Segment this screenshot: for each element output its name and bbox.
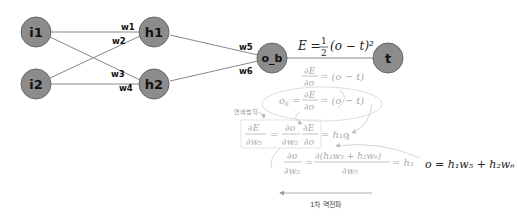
node-label: h2 <box>145 77 163 92</box>
weight-label-w3: w3 <box>111 69 125 79</box>
node-i2: i2 <box>21 69 51 99</box>
eq-part: = <box>292 95 300 106</box>
eq-part: 2 <box>321 48 327 58</box>
eq-part: ∂o <box>287 151 298 161</box>
eq-part: ∂w₅ <box>282 137 298 147</box>
weight-label-w5: w5 <box>239 42 253 52</box>
eq-part: ∂o <box>285 123 296 133</box>
weight-label-w2: w2 <box>112 36 126 46</box>
eq-part: ∂E <box>304 90 316 100</box>
backprop-label: 1차 역전파 <box>310 200 342 209</box>
node-label: t <box>385 51 391 66</box>
output-equation: o = h₁w₅ + h₂w₆ <box>425 158 515 171</box>
node-label: o_b <box>262 52 283 65</box>
weight-label-w4: w4 <box>119 83 133 93</box>
node-i1: i1 <box>21 17 51 47</box>
node-h2: h2 <box>139 69 169 99</box>
eq-part: (o − t)² <box>330 39 374 53</box>
eq-part: ∂E <box>248 123 260 133</box>
node-t: t <box>373 43 403 73</box>
error-equation: E = 1 2 (o − t)² <box>297 36 374 58</box>
do-dw5-equation: ∂o ∂w₅ = ∂(h₁w₅ + h₂w₆) ∂w₅ = h₁ <box>284 151 414 176</box>
delta-equation: o δ = ∂E ∂o = (o − t) <box>279 90 364 112</box>
chain-rule-equation: ∂E ∂w₅ = ∂o ∂w₅ ∂E ∂o = h₁o δ <box>245 123 350 147</box>
eq-part: = <box>305 157 313 168</box>
weight-label-w6: w6 <box>239 66 253 76</box>
eq-part: = h₁ <box>392 157 414 168</box>
node-ob: o_b <box>257 43 287 73</box>
edge-i2-h1 <box>50 36 140 78</box>
edge-i1-h2 <box>50 37 140 80</box>
eq-part: ∂E <box>304 66 316 76</box>
eq-part: ∂o <box>304 78 315 88</box>
eq-part: ∂o <box>304 137 315 147</box>
eq-part: E = <box>297 39 321 53</box>
node-label: i1 <box>29 25 43 40</box>
eq-part: = (o − t) <box>320 71 364 82</box>
eq-part: δ <box>346 134 350 141</box>
eq-part: ∂w₅ <box>342 166 358 176</box>
eq-part: δ <box>285 100 289 107</box>
node-h1: h1 <box>139 17 169 47</box>
eq-part: = h₁o <box>321 129 349 140</box>
weight-label-w1: w1 <box>121 22 135 32</box>
eq-part: ∂w₅ <box>246 137 262 147</box>
eq-part: ∂w₅ <box>284 166 300 176</box>
chain-rule-label: 연쇄법칙 <box>234 108 258 116</box>
eq-part: 1 <box>321 36 327 46</box>
network-diagram: i1 i2 h1 h2 o_b t w1 w2 w3 w4 w5 w6 E = … <box>0 0 517 217</box>
node-label: i2 <box>29 77 43 92</box>
dE-do-equation: ∂E ∂o = (o − t) <box>302 66 364 88</box>
eq-part: ∂E <box>303 123 315 133</box>
eq-part: ∂(h₁w₅ + h₂w₆) <box>315 151 382 161</box>
node-label: h1 <box>145 25 163 40</box>
eq-part: = <box>270 129 278 140</box>
eq-part: ∂o <box>304 102 315 112</box>
